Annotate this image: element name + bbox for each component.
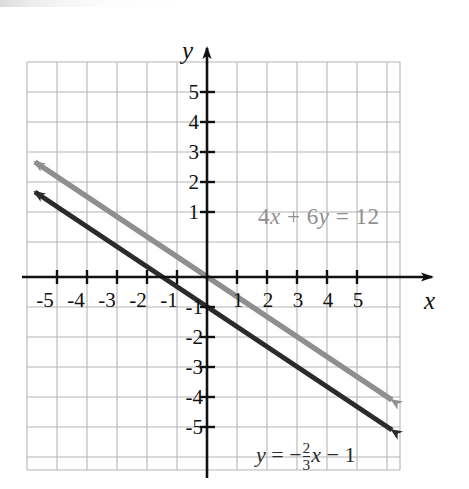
y-axis-label: y bbox=[182, 38, 193, 63]
x-tick-label--1: -1 bbox=[160, 290, 178, 311]
equation-label-gray: 4x + 6y = 12 bbox=[258, 204, 379, 230]
x-tick-label--2: -2 bbox=[129, 290, 147, 311]
gray-eq-plus: + bbox=[287, 204, 300, 229]
x-tick-label-3: 3 bbox=[293, 290, 304, 311]
x-tick-label--4: -4 bbox=[67, 290, 85, 311]
y-tick-label-3: 3 bbox=[189, 142, 200, 163]
black-eq-equals: = bbox=[271, 442, 283, 467]
black-eq-var-y: y bbox=[256, 442, 266, 467]
y-tick-label-5: 5 bbox=[189, 82, 200, 103]
x-tick-label--5: -5 bbox=[36, 290, 54, 311]
x-tick-label-2: 2 bbox=[263, 290, 274, 311]
gray-eq-coef2: 6 bbox=[307, 204, 319, 229]
y-tick-label--3: -3 bbox=[186, 357, 204, 378]
coordinate-plane-graph bbox=[0, 0, 469, 489]
x-tick-label-1: 1 bbox=[233, 290, 244, 311]
series-line-gray bbox=[35, 162, 392, 400]
y-tick-label--5: -5 bbox=[186, 417, 204, 438]
black-eq-operator: − bbox=[327, 442, 339, 467]
x-tick-label-5: 5 bbox=[353, 290, 364, 311]
black-eq-constant: 1 bbox=[345, 442, 356, 467]
black-eq-minus: − bbox=[289, 442, 301, 467]
x-axis-label: x bbox=[424, 288, 435, 313]
y-tick-label-2: 2 bbox=[189, 172, 200, 193]
gray-eq-var-y: y bbox=[319, 204, 330, 229]
gray-eq-coef: 4 bbox=[258, 204, 270, 229]
y-tick-label--4: -4 bbox=[186, 387, 204, 408]
x-tick-label--3: -3 bbox=[98, 290, 116, 311]
x-tick-label-4: 4 bbox=[323, 290, 334, 311]
gray-eq-equals: = bbox=[336, 204, 349, 229]
black-eq-fraction: 23 bbox=[303, 440, 311, 472]
fraction-numerator: 2 bbox=[303, 440, 311, 456]
gray-eq-rhs: 12 bbox=[355, 204, 379, 229]
gray-eq-var-x: x bbox=[270, 204, 281, 229]
y-tick-label--1: -1 bbox=[186, 297, 204, 318]
y-tick-label-1: 1 bbox=[189, 202, 200, 223]
black-eq-var-x: x bbox=[311, 442, 321, 467]
equation-label-black: y = −23x − 1 bbox=[256, 440, 356, 472]
y-tick-label--2: -2 bbox=[186, 327, 204, 348]
fraction-denominator: 3 bbox=[303, 456, 311, 473]
y-tick-label-4: 4 bbox=[189, 112, 200, 133]
